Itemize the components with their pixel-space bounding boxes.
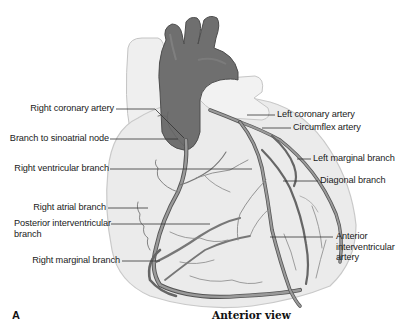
label-posterior-interventricular-branch: Posterior interventricular branch bbox=[14, 218, 114, 239]
label-right-ventricular-branch: Right ventricular branch bbox=[14, 163, 109, 174]
label-anterior-interventricular-artery: Anterior interventricular artery bbox=[336, 231, 402, 263]
panel-letter: A bbox=[12, 309, 20, 321]
label-right-atrial-branch: Right atrial branch bbox=[33, 202, 106, 213]
label-circumflex-artery: Circumflex artery bbox=[293, 122, 361, 133]
label-branch-to-sinoatrial-node: Branch to sinoatrial node bbox=[10, 133, 109, 144]
label-left-marginal-branch: Left marginal branch bbox=[313, 153, 395, 164]
label-left-coronary-artery: Left coronary artery bbox=[277, 109, 355, 120]
label-right-marginal-branch: Right marginal branch bbox=[32, 255, 120, 266]
label-right-coronary-artery: Right coronary artery bbox=[30, 103, 114, 114]
figure-caption: Anterior view bbox=[212, 309, 291, 321]
label-diagonal-branch: Diagonal branch bbox=[320, 175, 385, 186]
coronary-arteries-diagram: Right coronary artery Branch to sinoatri… bbox=[0, 0, 407, 327]
